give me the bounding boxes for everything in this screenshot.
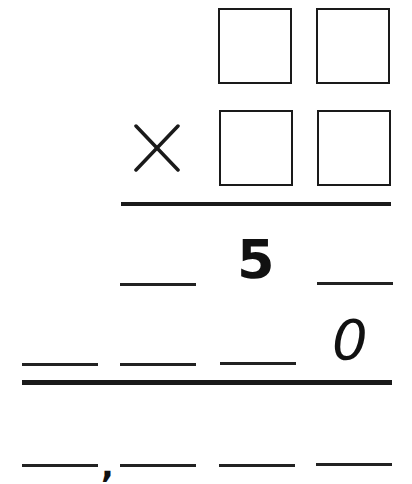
product-divider-line xyxy=(121,202,391,206)
final-blank-ones[interactable] xyxy=(316,463,392,466)
partial1-digit-tens: 5 xyxy=(237,233,275,287)
final-blank-thousands[interactable] xyxy=(22,464,98,467)
multiplicand-ones-box[interactable] xyxy=(316,8,390,84)
partial1-blank-hundreds[interactable] xyxy=(120,283,196,286)
multiplier-tens-box[interactable] xyxy=(219,110,293,186)
partial2-blank-thousands[interactable] xyxy=(22,363,98,366)
partial2-digit-ones: 0 xyxy=(332,312,368,368)
multiplicand-tens-box[interactable] xyxy=(218,8,292,84)
final-blank-tens[interactable] xyxy=(219,464,295,467)
multiply-sign-icon xyxy=(133,124,181,172)
final-blank-hundreds[interactable] xyxy=(120,464,196,467)
thousands-separator: , xyxy=(101,448,114,482)
partial2-blank-tens[interactable] xyxy=(220,362,296,365)
sum-divider-line xyxy=(22,380,392,385)
partial2-blank-hundreds[interactable] xyxy=(120,363,196,366)
partial1-blank-ones[interactable] xyxy=(317,282,393,285)
multiplier-ones-box[interactable] xyxy=(317,110,391,186)
